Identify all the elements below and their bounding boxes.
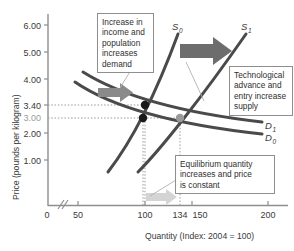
equilibrium-marker-final [176,114,184,122]
y-tick-label-340: 3.40 [23,101,41,111]
x-tick-label-200: 200 [260,210,275,220]
annotation-demand-line-2: population [102,38,149,48]
x-tick-label-100: 100 [137,210,152,220]
supply-shift-arrow-icon [180,37,232,65]
equilibrium-marker-initial [139,114,147,122]
quantity-increase-arrow-icon [146,189,177,205]
y-tick-label-4: 4.00 [23,75,41,85]
chart-figure: Price (pounds per kilogram) Quantity (In… [0,0,294,251]
curve-label-s0-sub: 0 [179,27,183,34]
y-tick-label-2: 2.00 [23,129,41,139]
x-tick-label-134: 134 [172,210,187,220]
annotation-supply-line-3: supply [234,101,288,111]
annotation-demand-line-4: demand [102,59,149,69]
y-axis-title: Price (pounds per kilogram) [11,94,21,200]
curve-label-d0-sub: 0 [273,138,277,145]
annotation-equilibrium-line-2: is constant [180,180,270,190]
curve-label-s0-base: S [172,21,179,32]
annotation-supply: Technological advance and entry increase… [229,66,293,116]
annotation-demand-line-0: Increase in [102,17,149,27]
annotation-equilibrium: Equilibrium quantity increases and price… [175,155,275,194]
y-tick-label-1: 1.00 [23,156,41,166]
x-axis-ticks [78,201,268,205]
x-tick-label-50: 50 [73,210,83,220]
x-axis-title: Quantity (Index: 2004 = 100) [145,231,254,241]
equilibrium-marker-demand-shift [141,101,149,109]
curve-label-s1-base: S [241,21,248,32]
annotation-demand: Increase in income and population increa… [97,13,154,73]
curve-label-d0-base: D [265,132,272,143]
curve-label-d1-sub: 1 [273,126,277,133]
y-tick-label-6: 6.00 [23,21,41,31]
curve-label-d1-base: D [265,120,272,131]
annotation-supply-line-0: Technological [234,70,288,80]
x-tick-label-0: 0 [44,210,49,220]
annotation-demand-line-1: income and [102,27,149,37]
annotation-supply-line-1: advance and [234,80,288,90]
x-tick-label-150: 150 [192,210,207,220]
annotation-equilibrium-line-1: increases and price [180,169,270,179]
y-tick-label-5: 5.00 [23,48,41,58]
curve-label-s1-sub: 1 [248,27,252,34]
annotation-demand-line-3: increases [102,48,149,58]
annotation-supply-line-2: entry increase [234,91,288,101]
annotation-equilibrium-line-0: Equilibrium quantity [180,159,270,169]
y-tick-label-300: 3.00 [23,113,41,123]
x-axis-break-icon [58,200,68,209]
